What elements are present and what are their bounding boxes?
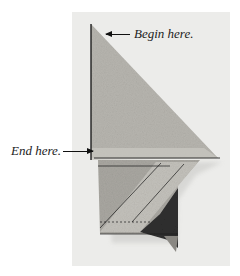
end-arrow: [63, 151, 93, 152]
upper-fabric-triangle: [91, 24, 218, 158]
end-label: End here.: [11, 143, 61, 159]
folded-fabric-photo: [0, 0, 240, 276]
begin-label: Begin here.: [134, 26, 193, 42]
begin-arrow: [106, 34, 130, 35]
